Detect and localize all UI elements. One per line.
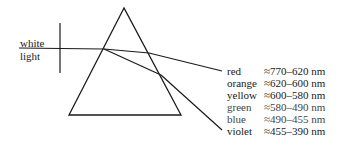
color-name: orange xyxy=(227,77,257,89)
spectrum-row-red: red ≈770–620 nm xyxy=(227,65,345,77)
spectrum-row-yellow: yellow ≈600–580 nm xyxy=(227,89,345,101)
color-name: blue xyxy=(227,113,246,125)
white-light-label-line1: white xyxy=(20,38,44,49)
spectrum-row-green: green ≈580–490 nm xyxy=(227,101,345,113)
color-name: green xyxy=(227,101,251,113)
wavelength-range: ≈455–390 nm xyxy=(264,125,325,137)
prism-dispersion-diagram: white light red ≈770–620 nm orange ≈620–… xyxy=(0,0,345,145)
color-name: violet xyxy=(227,125,252,137)
prism xyxy=(69,8,181,115)
spectrum-row-blue: blue ≈490–455 nm xyxy=(227,113,345,125)
wavelength-range: ≈600–580 nm xyxy=(264,89,325,101)
violet-ray-emergent xyxy=(161,75,222,130)
color-name: red xyxy=(227,65,241,77)
spectrum-row-violet: violet ≈455–390 nm xyxy=(227,125,345,137)
wavelength-range: ≈580–490 nm xyxy=(264,101,325,113)
wavelength-range: ≈490–455 nm xyxy=(264,113,325,125)
white-light-label-line2: light xyxy=(20,51,40,62)
wavelength-range: ≈620–600 nm xyxy=(264,77,325,89)
wavelength-range: ≈770–620 nm xyxy=(264,65,325,77)
color-name: yellow xyxy=(227,89,257,101)
spectrum-row-orange: orange ≈620–600 nm xyxy=(227,77,345,89)
red-ray-emergent xyxy=(149,53,222,71)
